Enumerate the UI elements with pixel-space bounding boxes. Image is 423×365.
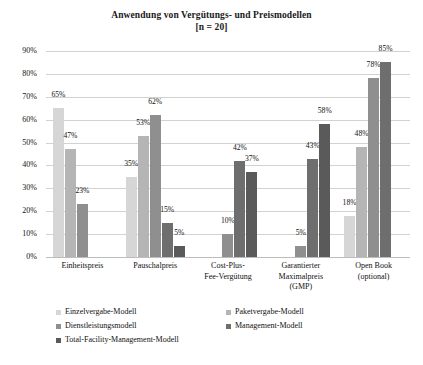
bar-slot: 35% — [126, 51, 137, 257]
bar-slot: 48% — [356, 51, 367, 257]
bar-value-label: 78% — [367, 60, 381, 69]
chart-subtitle: [n = 20] — [0, 21, 423, 33]
legend-item-label: Einzelvergabe-Modell — [65, 307, 136, 317]
bar-slot — [101, 51, 112, 257]
bar — [344, 216, 355, 257]
legend-item-label: Dienstleistungsmodell — [65, 321, 137, 331]
bar — [222, 234, 233, 257]
bar-value-label: 15% — [160, 205, 174, 214]
bar-slot: 62% — [150, 51, 161, 257]
bar — [307, 159, 318, 257]
x-axis-category-label: Einheitspreis — [46, 261, 119, 293]
bar-value-label: 5% — [296, 228, 306, 237]
bar-value-label: 43% — [306, 141, 320, 150]
gridline — [46, 257, 410, 258]
bar-value-label: 48% — [355, 129, 369, 138]
bar-slot: 53% — [138, 51, 149, 257]
bar-slot: 43% — [307, 51, 318, 257]
bar-slot — [89, 51, 100, 257]
legend-item[interactable]: Total-Facility-Management-Modell — [56, 333, 396, 347]
x-axis-category-label: Open Book(optional) — [337, 261, 410, 293]
bar-value-label: 65% — [51, 90, 65, 99]
bar-slot: 18% — [344, 51, 355, 257]
chart-container: Anwendung von Vergütungs- und Preismodel… — [0, 0, 423, 365]
bar — [162, 223, 173, 257]
bar — [380, 62, 391, 257]
legend-item-label: Total-Facility-Management-Modell — [65, 335, 179, 345]
y-axis-labels: 0%10%20%30%40%50%60%70%80%90% — [0, 51, 42, 257]
bar-value-label: 62% — [148, 97, 162, 106]
bar-slot: 85% — [380, 51, 391, 257]
legend-item[interactable]: Management-Modell — [226, 319, 396, 333]
bar-value-label: 42% — [233, 143, 247, 152]
x-axis-category-label: GarantierterMaximalpreis(GMP) — [264, 261, 337, 293]
bar-slot: 65% — [53, 51, 64, 257]
bar — [53, 108, 64, 257]
bar-value-label: 10% — [221, 216, 235, 225]
y-axis-tick-label: 70% — [22, 93, 37, 101]
bar — [368, 78, 379, 257]
plot-area: 65%47%23%35%53%62%15%5%10%42%37%5%43%58%… — [46, 51, 410, 257]
bar — [77, 204, 88, 257]
bar — [126, 177, 137, 257]
bar-groups: 65%47%23%35%53%62%15%5%10%42%37%5%43%58%… — [46, 51, 410, 257]
y-axis-tick-label: 40% — [22, 161, 37, 169]
x-axis-category-label: Cost-Plus-Fee-Vergütung — [192, 261, 265, 293]
bar — [234, 161, 245, 257]
legend-swatch-icon — [56, 338, 61, 343]
bar-slot — [198, 51, 209, 257]
bar-slot — [392, 51, 403, 257]
legend-swatch-icon — [226, 324, 231, 329]
bar-slot: 47% — [65, 51, 76, 257]
bar-value-label: 18% — [343, 198, 357, 207]
bar-value-label: 5% — [174, 228, 184, 237]
y-axis-tick-label: 80% — [22, 70, 37, 78]
bar-value-label: 35% — [124, 159, 138, 168]
bar-slot — [271, 51, 282, 257]
y-axis-tick-label: 10% — [22, 230, 37, 238]
bar-slot: 15% — [162, 51, 173, 257]
bar — [295, 246, 306, 257]
legend-item[interactable]: Paketvergabe-Modell — [226, 305, 396, 319]
bar-value-label: 47% — [63, 131, 77, 140]
legend-item-label: Paketvergabe-Modell — [235, 307, 304, 317]
y-axis-tick-label: 50% — [22, 139, 37, 147]
bar-slot: 10% — [222, 51, 233, 257]
x-axis-category-label: Pauschalpreis — [119, 261, 192, 293]
legend-swatch-icon — [56, 310, 61, 315]
legend-item-label: Management-Modell — [235, 321, 303, 331]
bar — [319, 124, 330, 257]
bar-value-label: 58% — [318, 106, 332, 115]
y-axis-tick-label: 60% — [22, 116, 37, 124]
bar — [150, 115, 161, 257]
y-axis-tick-label: 20% — [22, 207, 37, 215]
bar-value-label: 37% — [245, 154, 259, 163]
x-axis-labels: EinheitspreisPauschalpreisCost-Plus-Fee-… — [46, 261, 410, 293]
bar-slot: 37% — [246, 51, 257, 257]
bar-group: 35%53%62%15%5% — [119, 51, 192, 257]
bar-value-label: 53% — [136, 118, 150, 127]
y-axis-tick-label: 30% — [22, 184, 37, 192]
bar — [246, 172, 257, 257]
bar-group: 10%42%37% — [192, 51, 265, 257]
y-axis-tick-label: 0% — [26, 253, 37, 261]
legend-swatch-icon — [226, 310, 231, 315]
bar-group: 5%43%58% — [264, 51, 337, 257]
bar-slot — [283, 51, 294, 257]
bar-slot: 5% — [174, 51, 185, 257]
bar-slot: 42% — [234, 51, 245, 257]
bar — [65, 149, 76, 257]
bar-slot — [210, 51, 221, 257]
bar-group: 18%48%78%85% — [337, 51, 410, 257]
legend-item[interactable]: Einzelvergabe-Modell — [56, 305, 226, 319]
bar-slot: 23% — [77, 51, 88, 257]
legend-item[interactable]: Dienstleistungsmodell — [56, 319, 226, 333]
bar — [174, 246, 185, 257]
bar — [138, 136, 149, 257]
bar-group: 65%47%23% — [46, 51, 119, 257]
legend-swatch-icon — [56, 324, 61, 329]
chart-title: Anwendung von Vergütungs- und Preismodel… — [0, 9, 423, 21]
bar-slot: 78% — [368, 51, 379, 257]
bar-slot: 58% — [319, 51, 330, 257]
chart-legend: Einzelvergabe-ModellPaketvergabe-ModellD… — [56, 305, 396, 347]
